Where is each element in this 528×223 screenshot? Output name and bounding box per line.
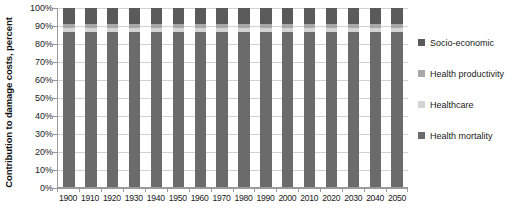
x-axis-tick-label: 1910 [79, 193, 101, 209]
x-axis-tick-cell [211, 188, 233, 192]
bar-segment[interactable] [260, 8, 271, 24]
bar-segment[interactable] [238, 32, 249, 187]
y-axis-tick-label: 30% [35, 129, 53, 139]
bar-slot [189, 8, 211, 187]
x-axis-tick-marks [57, 188, 408, 192]
bar-stack[interactable] [129, 8, 140, 187]
bar-segment[interactable] [129, 32, 140, 187]
bar-stack[interactable] [326, 8, 337, 187]
bar-segment[interactable] [370, 8, 381, 24]
bar-segment[interactable] [348, 32, 359, 187]
bar-segment[interactable] [107, 8, 118, 24]
bar-stack[interactable] [282, 8, 293, 187]
bar-segment[interactable] [151, 8, 162, 24]
x-axis-tick-labels: 1900191019201930194019501960197019801990… [57, 193, 408, 209]
x-axis-tick-label: 1970 [211, 193, 233, 209]
bar-segment[interactable] [195, 8, 206, 24]
bar-segment[interactable] [173, 8, 184, 24]
bar-segment[interactable] [282, 8, 293, 24]
legend-item[interactable]: Health mortality [418, 120, 528, 151]
bar-stack[interactable] [63, 8, 74, 187]
x-axis-tick-cell [167, 188, 189, 192]
bar-segment[interactable] [195, 32, 206, 187]
legend-swatch-icon [418, 70, 425, 77]
bar-segment[interactable] [151, 32, 162, 187]
bar-stack[interactable] [304, 8, 315, 187]
bar-slot [233, 8, 255, 187]
legend-item-label: Health mortality [430, 131, 493, 141]
bar-segment[interactable] [326, 32, 337, 187]
bar-stack[interactable] [260, 8, 271, 187]
bar-stack[interactable] [195, 8, 206, 187]
bar-segment[interactable] [391, 32, 402, 187]
x-axis-tick-cell [123, 188, 145, 192]
x-axis-tick-label: 1980 [233, 193, 255, 209]
x-axis-tick-label: 2020 [320, 193, 342, 209]
x-axis-tick-label: 2050 [386, 193, 408, 209]
bar-segment[interactable] [173, 32, 184, 187]
bar-segment[interactable] [348, 8, 359, 24]
x-axis-tick-cell [145, 188, 167, 192]
bar-stack[interactable] [370, 8, 381, 187]
y-axis-tick-label: 50% [35, 93, 53, 103]
x-axis-tick-label: 2000 [276, 193, 298, 209]
x-axis-tick-cell [320, 188, 342, 192]
legend-item[interactable]: Health productivity [418, 58, 528, 89]
bar-segment[interactable] [216, 8, 227, 24]
bar-segment[interactable] [85, 8, 96, 24]
bar-segment[interactable] [304, 32, 315, 187]
x-axis-tick-cell [57, 188, 79, 192]
legend-item-label: Socio-economic [430, 38, 494, 48]
y-axis-tick-label: 70% [35, 57, 53, 67]
y-axis-tick-label: 90% [35, 21, 53, 31]
bar-stack[interactable] [348, 8, 359, 187]
x-axis-tick-label: 1960 [189, 193, 211, 209]
x-axis-tick-label: 1940 [145, 193, 167, 209]
bar-stack[interactable] [151, 8, 162, 187]
bar-stack[interactable] [216, 8, 227, 187]
legend-swatch-icon [418, 39, 425, 46]
bar-segment[interactable] [326, 8, 337, 24]
bar-segment[interactable] [238, 8, 249, 24]
bar-slot [102, 8, 124, 187]
bar-segment[interactable] [63, 8, 74, 24]
bar-segment[interactable] [85, 32, 96, 187]
y-axis-tick-label: 10% [35, 165, 53, 175]
y-axis-tick-label: 60% [35, 75, 53, 85]
stacked-column-chart: Contribution to damage costs, percent 10… [0, 0, 528, 223]
legend-item[interactable]: Healthcare [418, 89, 528, 120]
bar-segment[interactable] [216, 32, 227, 187]
bar-segment[interactable] [370, 32, 381, 187]
bar-slot [364, 8, 386, 187]
bar-stack[interactable] [85, 8, 96, 187]
legend-item[interactable]: Socio-economic [418, 27, 528, 58]
bar-segment[interactable] [391, 8, 402, 24]
y-axis-title-text: Contribution to damage costs, percent [3, 17, 14, 187]
x-axis-tick-cell [254, 188, 276, 192]
plot-area [57, 8, 408, 188]
bar-slot [255, 8, 277, 187]
y-axis-tick-labels: 100%90%80%70%60%50%40%30%20%10%0% [16, 8, 56, 188]
bar-segment[interactable] [260, 32, 271, 187]
bar-segment[interactable] [304, 8, 315, 24]
bar-stack[interactable] [107, 8, 118, 187]
bar-slot [342, 8, 364, 187]
y-axis-tick-label: 0% [40, 183, 53, 193]
bar-stack[interactable] [238, 8, 249, 187]
x-axis-tick-label: 1930 [123, 193, 145, 209]
x-axis-tick-cell [79, 188, 101, 192]
y-axis-tick-label: 100% [30, 3, 53, 13]
x-axis-tick-cell [342, 188, 364, 192]
bar-stack[interactable] [173, 8, 184, 187]
y-axis-tick-label: 20% [35, 147, 53, 157]
x-axis-tick-label: 1950 [167, 193, 189, 209]
bar-segment[interactable] [107, 32, 118, 187]
bar-slot [80, 8, 102, 187]
x-axis-tick-label: 1990 [254, 193, 276, 209]
bar-segment[interactable] [63, 32, 74, 187]
x-axis-tick-label: 1920 [101, 193, 123, 209]
bar-segment[interactable] [282, 32, 293, 187]
y-axis-title: Contribution to damage costs, percent [0, 0, 16, 205]
bar-segment[interactable] [129, 8, 140, 24]
bar-stack[interactable] [391, 8, 402, 187]
